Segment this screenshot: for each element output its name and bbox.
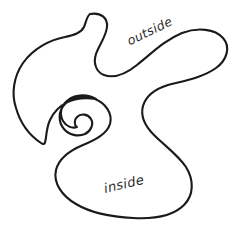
- curve-canvas: [0, 0, 240, 230]
- jordan-curve-figure: outside inside: [0, 0, 240, 230]
- canvas-background: [0, 0, 240, 230]
